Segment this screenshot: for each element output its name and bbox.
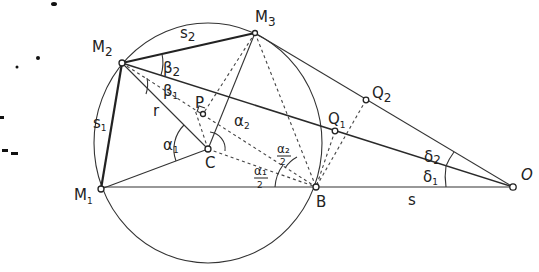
angle-arc-delta2 (446, 152, 454, 166)
svg-text:α₁: α₁ (254, 164, 267, 178)
radius-CM3 (208, 33, 255, 149)
label-B: B (316, 193, 326, 211)
angle-arc-delta1 (445, 166, 446, 187)
label-P: P (195, 94, 204, 112)
radius-CM1 (101, 149, 208, 189)
scan-specks (0, 2, 57, 155)
point-M1 (98, 186, 104, 192)
svg-text:2: 2 (257, 180, 263, 190)
point-M3 (253, 31, 258, 36)
point-O (510, 184, 516, 190)
point-Q1 (332, 128, 338, 134)
label-alpha1: α1 (163, 136, 179, 155)
label-Q2: Q2 (372, 84, 391, 105)
label-alpha2: α2 (234, 112, 250, 131)
dash-M3-P (203, 33, 255, 114)
label-delta1: δ1 (423, 168, 438, 187)
dash-Q2-B (316, 100, 366, 187)
angle-arc-alpha1-half (275, 165, 283, 187)
label-beta1: β1 (163, 82, 178, 101)
dash-M2-B (122, 63, 316, 187)
point-B (313, 184, 319, 190)
point-Q2 (363, 97, 369, 103)
label-alpha1-half: α₁ 2 (254, 164, 268, 190)
point-P (201, 112, 206, 117)
label-O: O (521, 166, 533, 184)
label-M2: M2 (92, 38, 113, 59)
svg-text:2: 2 (280, 157, 286, 167)
point-M2 (119, 60, 125, 66)
label-beta2: β2 (163, 59, 180, 79)
angle-arc-alpha1 (174, 125, 184, 161)
label-r: r (153, 102, 160, 120)
svg-text:α₂: α₂ (277, 142, 290, 156)
label-delta2: δ2 (424, 148, 441, 167)
line-M3-O (255, 33, 513, 187)
geometry-diagram: M1 M2 M3 C B O P Q1 Q2 s1 s2 r s α1 α2 α… (0, 0, 539, 272)
label-Q1: Q1 (328, 110, 346, 130)
label-M3: M3 (255, 8, 276, 29)
line-M2-O (122, 63, 513, 187)
label-s: s (408, 191, 416, 209)
angle-arc-alpha2 (210, 132, 225, 151)
label-M1: M1 (74, 186, 93, 206)
angle-arc-beta1 (146, 78, 148, 94)
label-s1: s1 (93, 114, 107, 133)
angle-arc-alpha2-half (285, 157, 297, 168)
label-s2: s2 (180, 24, 195, 44)
point-C (205, 146, 211, 152)
label-C: C (205, 154, 215, 172)
